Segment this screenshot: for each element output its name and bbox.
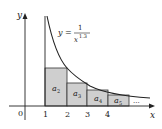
svg-text:2: 2 [57,88,60,94]
tick-1: 1 [43,110,48,119]
function-lhs: y = [57,28,72,37]
x-axis-arrow-icon [149,104,155,109]
function-numerator: 1 [78,24,82,32]
svg-text:5: 5 [119,100,122,106]
svg-text:3: 3 [78,93,81,99]
function-denominator-base: x [74,36,78,44]
tick-2: 2 [65,110,70,119]
svg-text:4: 4 [99,98,102,104]
y-axis-label: y [16,10,23,20]
y-axis-arrow-icon [23,13,28,19]
function-denominator-exp: 1.3 [79,33,87,39]
series-comparison-diagram: y x 0 1 2 3 4 y = 1 x 1.3 a 2 a 3 a 4 a … [0,0,162,129]
origin-label: 0 [18,109,23,118]
ellipsis: ... [133,97,140,105]
tick-4: 4 [105,110,110,119]
tick-3: 3 [85,110,90,119]
x-axis-label: x [150,110,155,120]
